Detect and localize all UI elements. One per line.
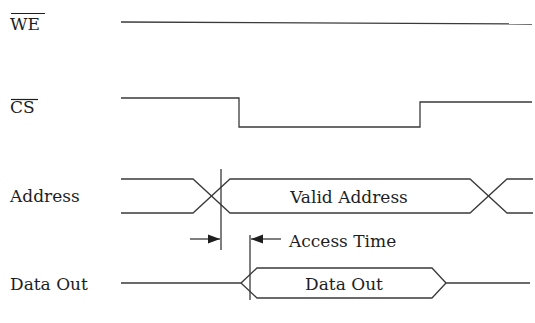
arrow-left-head-icon: [251, 235, 263, 244]
arrow-right-head-icon: [208, 235, 220, 244]
signal-data-out: Data Out Data Out: [10, 268, 530, 298]
waveform-we: [121, 22, 532, 24]
signal-cs: CS: [10, 97, 532, 127]
waveform-cs: [121, 98, 532, 127]
signal-we: WE: [10, 14, 532, 35]
timing-diagram: WE CS Address Valid Address Access Time …: [0, 0, 535, 323]
signal-label-address: Address: [9, 186, 80, 206]
bus-label-valid-address: Valid Address: [289, 187, 408, 207]
signal-label-data-out: Data Out: [10, 274, 88, 294]
access-time-label: Access Time: [288, 231, 396, 251]
signal-label-we: WE: [10, 14, 40, 34]
signal-address: Address Valid Address: [9, 179, 533, 213]
bus-label-data-out: Data Out: [305, 274, 383, 294]
